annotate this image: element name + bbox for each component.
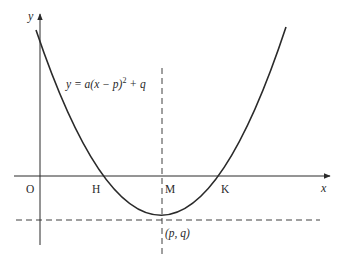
origin-label: O xyxy=(26,183,34,195)
parabola-diagram: y x y = a(x − p)2 + q O H M K (p, q) xyxy=(0,0,343,254)
vertex-label: (p, q) xyxy=(165,227,190,240)
y-axis-label: y xyxy=(27,9,34,23)
parabola-curve xyxy=(36,27,286,215)
point-k-label: K xyxy=(221,183,230,195)
point-h-label: H xyxy=(92,183,100,195)
equation-label: y = a(x − p)2 + q xyxy=(65,76,146,91)
x-axis-label: x xyxy=(320,181,327,195)
point-m-label: M xyxy=(165,183,175,195)
